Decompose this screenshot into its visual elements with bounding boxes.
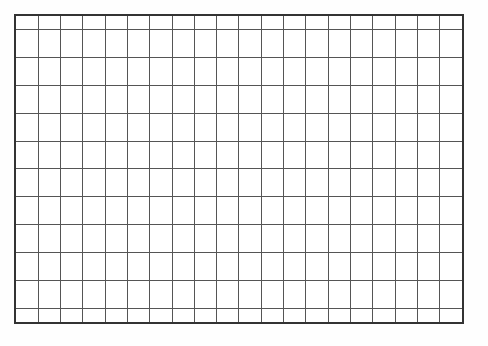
grid-cell[interactable] bbox=[61, 280, 83, 308]
grid-cell[interactable] bbox=[284, 280, 306, 308]
grid-cell[interactable] bbox=[217, 197, 239, 225]
grid-cell[interactable] bbox=[373, 16, 395, 30]
grid-cell[interactable] bbox=[38, 86, 60, 114]
grid-cell[interactable] bbox=[284, 16, 306, 30]
grid-cell[interactable] bbox=[38, 197, 60, 225]
grid-cell[interactable] bbox=[328, 86, 350, 114]
grid-cell[interactable] bbox=[16, 58, 38, 86]
grid-cell[interactable] bbox=[38, 16, 60, 30]
grid-cell[interactable] bbox=[150, 308, 172, 322]
grid-cell[interactable] bbox=[172, 16, 194, 30]
grid-cell[interactable] bbox=[194, 169, 216, 197]
grid-cell[interactable] bbox=[127, 225, 149, 253]
grid-cell[interactable] bbox=[373, 30, 395, 58]
grid-cell[interactable] bbox=[306, 30, 328, 58]
grid-cell[interactable] bbox=[16, 30, 38, 58]
grid-cell[interactable] bbox=[217, 169, 239, 197]
grid-cell[interactable] bbox=[284, 113, 306, 141]
grid-cell[interactable] bbox=[239, 252, 261, 280]
grid-cell[interactable] bbox=[328, 197, 350, 225]
grid-cell[interactable] bbox=[417, 141, 439, 169]
grid-cell[interactable] bbox=[105, 141, 127, 169]
grid-cell[interactable] bbox=[150, 16, 172, 30]
grid-cell[interactable] bbox=[395, 141, 417, 169]
grid-cell[interactable] bbox=[306, 16, 328, 30]
grid-cell[interactable] bbox=[284, 308, 306, 322]
grid-cell[interactable] bbox=[395, 252, 417, 280]
grid-cell[interactable] bbox=[217, 86, 239, 114]
grid-cell[interactable] bbox=[38, 169, 60, 197]
grid-cell[interactable] bbox=[261, 16, 283, 30]
grid-cell[interactable] bbox=[61, 113, 83, 141]
grid-cell[interactable] bbox=[194, 16, 216, 30]
grid-cell[interactable] bbox=[38, 252, 60, 280]
grid-cell[interactable] bbox=[38, 30, 60, 58]
grid-cell[interactable] bbox=[350, 86, 372, 114]
grid-cell[interactable] bbox=[350, 308, 372, 322]
grid-cell[interactable] bbox=[127, 113, 149, 141]
grid-cell[interactable] bbox=[83, 141, 105, 169]
grid-cell[interactable] bbox=[172, 280, 194, 308]
grid-cell[interactable] bbox=[239, 169, 261, 197]
grid-cell[interactable] bbox=[306, 58, 328, 86]
grid-cell[interactable] bbox=[105, 86, 127, 114]
grid-cell[interactable] bbox=[61, 141, 83, 169]
grid-cell[interactable] bbox=[417, 197, 439, 225]
grid-cell[interactable] bbox=[284, 141, 306, 169]
grid-cell[interactable] bbox=[127, 141, 149, 169]
grid-cell[interactable] bbox=[350, 113, 372, 141]
grid-cell[interactable] bbox=[105, 58, 127, 86]
grid-cell[interactable] bbox=[127, 280, 149, 308]
grid-cell[interactable] bbox=[306, 86, 328, 114]
grid-cell[interactable] bbox=[127, 308, 149, 322]
grid-cell[interactable] bbox=[127, 197, 149, 225]
grid-cell[interactable] bbox=[150, 169, 172, 197]
grid-cell[interactable] bbox=[395, 30, 417, 58]
grid-cell[interactable] bbox=[284, 252, 306, 280]
grid-cell[interactable] bbox=[306, 169, 328, 197]
grid-cell[interactable] bbox=[350, 169, 372, 197]
grid-cell[interactable] bbox=[440, 58, 462, 86]
grid-cell[interactable] bbox=[350, 225, 372, 253]
grid-cell[interactable] bbox=[328, 113, 350, 141]
grid-cell[interactable] bbox=[194, 252, 216, 280]
grid-cell[interactable] bbox=[83, 225, 105, 253]
grid-cell[interactable] bbox=[61, 16, 83, 30]
grid-cell[interactable] bbox=[239, 197, 261, 225]
grid-cell[interactable] bbox=[284, 225, 306, 253]
grid-cell[interactable] bbox=[417, 113, 439, 141]
grid-cell[interactable] bbox=[306, 252, 328, 280]
grid-cell[interactable] bbox=[172, 252, 194, 280]
grid-cell[interactable] bbox=[61, 169, 83, 197]
grid-cell[interactable] bbox=[16, 280, 38, 308]
grid-cell[interactable] bbox=[373, 280, 395, 308]
grid-cell[interactable] bbox=[440, 86, 462, 114]
grid-cell[interactable] bbox=[239, 58, 261, 86]
grid-cell[interactable] bbox=[105, 113, 127, 141]
grid-cell[interactable] bbox=[395, 225, 417, 253]
grid-cell[interactable] bbox=[16, 169, 38, 197]
grid-cell[interactable] bbox=[440, 308, 462, 322]
grid-cell[interactable] bbox=[217, 113, 239, 141]
grid-cell[interactable] bbox=[373, 169, 395, 197]
grid-cell[interactable] bbox=[239, 308, 261, 322]
grid-cell[interactable] bbox=[127, 58, 149, 86]
grid-cell[interactable] bbox=[306, 225, 328, 253]
grid-cell[interactable] bbox=[261, 141, 283, 169]
grid-cell[interactable] bbox=[194, 141, 216, 169]
grid-cell[interactable] bbox=[83, 252, 105, 280]
grid-cell[interactable] bbox=[217, 30, 239, 58]
grid-cell[interactable] bbox=[83, 86, 105, 114]
grid-cell[interactable] bbox=[261, 86, 283, 114]
grid-cell[interactable] bbox=[261, 169, 283, 197]
grid-cell[interactable] bbox=[172, 30, 194, 58]
grid-cell[interactable] bbox=[328, 169, 350, 197]
grid-cell[interactable] bbox=[440, 280, 462, 308]
grid-cell[interactable] bbox=[417, 169, 439, 197]
grid-cell[interactable] bbox=[417, 86, 439, 114]
grid-cell[interactable] bbox=[150, 113, 172, 141]
grid-cell[interactable] bbox=[417, 30, 439, 58]
grid-cell[interactable] bbox=[261, 308, 283, 322]
grid-cell[interactable] bbox=[239, 225, 261, 253]
grid-cell[interactable] bbox=[105, 197, 127, 225]
